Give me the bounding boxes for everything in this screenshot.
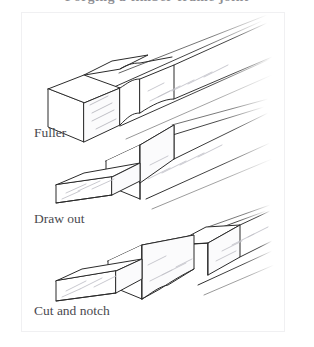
caption-cut-and-notch: Cut and notch xyxy=(34,303,110,319)
page-title: Forging a timber-frame joint xyxy=(0,0,314,6)
page-title-text: Forging a timber-frame joint xyxy=(0,0,314,5)
figure-panel: Fuller Draw out Cut and notch xyxy=(21,12,285,332)
step-3-cut-and-notch-drawing xyxy=(56,205,274,301)
caption-fuller: Fuller xyxy=(34,125,66,141)
blacksmithing-steps-illustration xyxy=(22,13,284,331)
caption-draw-out: Draw out xyxy=(34,211,85,227)
step-1-fuller-drawing xyxy=(48,15,272,142)
